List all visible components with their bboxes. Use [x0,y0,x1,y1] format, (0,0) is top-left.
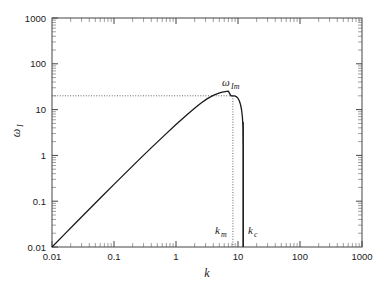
x-tick-label-0.01: 0.01 [43,251,62,262]
k-c-subscript: c [254,230,258,239]
omega-im-subscript: Im [230,82,240,91]
x-tick-label-1: 1 [173,251,178,262]
y-axis-title-subscript: I [16,124,25,128]
annotation-k-m: k m [215,224,227,239]
y-tick-label-1000: 1000 [25,13,46,24]
y-axis-title: ω I [9,124,25,137]
y-tick-label-10: 10 [35,104,46,115]
y-tick-label-0.1: 0.1 [33,196,46,207]
x-tick-label-100: 100 [292,251,308,262]
k-m-subscript: m [221,230,227,239]
annotation-omega-im: ω Im [222,76,240,91]
chart-text-layer: 1000 100 10 1 0.1 0.01 0.01 0.1 1 10 100… [0,0,385,290]
annotation-k-c: k c [248,224,258,239]
y-tick-label-1: 1 [41,150,46,161]
figure-container: 1000 100 10 1 0.1 0.01 0.01 0.1 1 10 100… [0,0,385,290]
x-tick-label-1000: 1000 [351,251,372,262]
y-tick-label-100: 100 [30,58,46,69]
omega-im-symbol: ω [222,76,230,88]
y-axis-title-symbol: ω [9,129,23,137]
x-tick-label-0.1: 0.1 [107,251,120,262]
x-axis-title: k [204,266,210,280]
x-tick-label-10: 10 [233,251,244,262]
